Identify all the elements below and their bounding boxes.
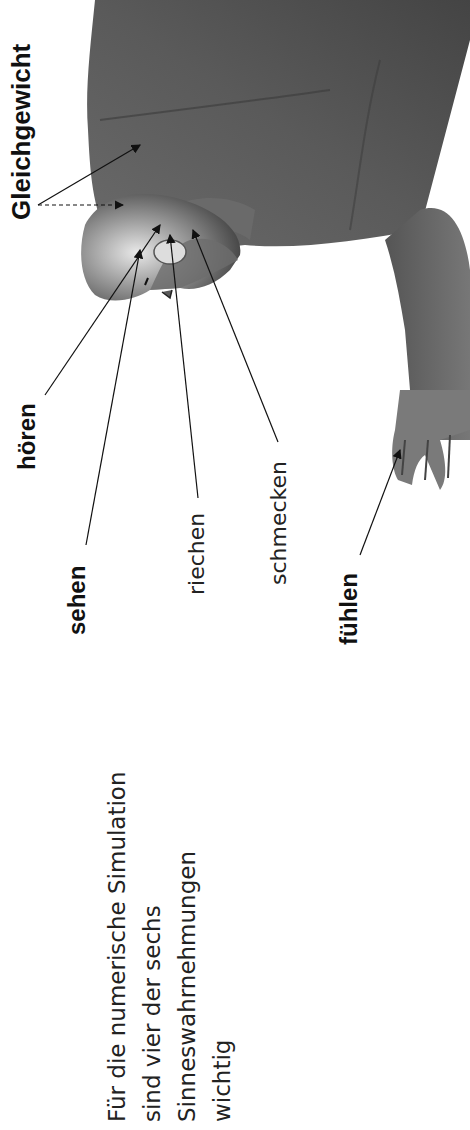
page-rotated: Gleichgewicht hören sehen riechen schmec… (0, 0, 470, 1130)
label-gleichgewicht: Gleichgewicht (8, 44, 34, 220)
caption-line: Für die numerische Simulation (100, 722, 135, 1122)
arm (385, 208, 470, 490)
caption-text: Für die numerische Simulation sind vier … (100, 722, 240, 1122)
label-schmecken: schmecken (268, 461, 290, 585)
caption-line: sind vier der sechs (135, 722, 170, 1122)
label-fuehlen: fühlen (337, 573, 361, 645)
caption-line: wichtig (205, 722, 240, 1122)
label-sehen: sehen (65, 566, 89, 635)
label-riechen: riechen (186, 513, 208, 595)
caption-line: Sinneswahrnehmungen (170, 722, 205, 1122)
label-hoeren: hören (15, 403, 39, 470)
